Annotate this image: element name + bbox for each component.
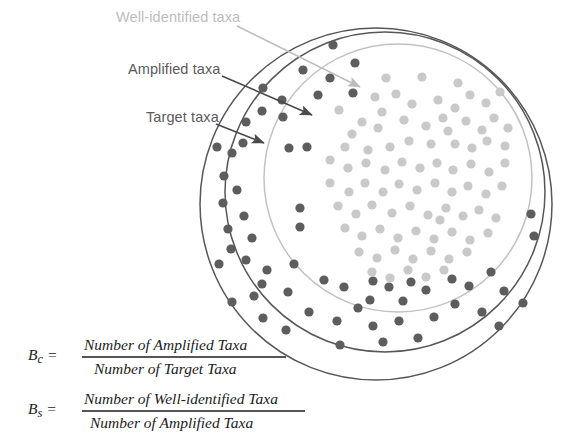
taxa-dot-inner [415, 163, 424, 172]
taxa-dot-outer [258, 313, 267, 322]
taxa-dot-outer [257, 106, 266, 115]
taxa-dot-outer [295, 203, 304, 212]
taxa-dot-inner [433, 95, 442, 104]
taxa-dot-outer [302, 142, 311, 151]
taxa-dot-outer [325, 73, 334, 82]
taxa-dot-outer [398, 296, 407, 305]
taxa-dot-outer [335, 340, 344, 349]
taxa-dot-outer [278, 112, 287, 121]
taxa-dot-outer [368, 321, 377, 330]
taxa-dot-outer [413, 333, 422, 342]
taxa-dot-inner [394, 179, 403, 188]
formula-bc-numerator: Number of Amplified Taxa [83, 336, 247, 353]
taxa-dot-inner [491, 213, 500, 222]
taxa-dot-inner [387, 208, 396, 217]
taxa-dot-inner [325, 155, 334, 164]
taxa-dot-inner [450, 103, 459, 112]
well-identified-taxa-dots [325, 72, 512, 282]
taxa-dot-inner [463, 181, 472, 190]
formula-bs: Bs = Number of Well-identified Taxa Numb… [28, 390, 305, 431]
taxa-dot-inner [432, 158, 441, 167]
taxa-dot-outer [450, 299, 459, 308]
taxa-dot-inner [325, 178, 334, 187]
taxa-dot-outer [378, 337, 387, 346]
taxa-dot-outer [289, 259, 298, 268]
taxa-dot-outer [281, 325, 290, 334]
formula-bs-numerator: Number of Well-identified Taxa [83, 390, 278, 407]
taxa-dot-inner [391, 89, 400, 98]
taxa-dot-inner [465, 90, 474, 99]
taxa-dot-inner [397, 157, 406, 166]
taxa-dot-inner [435, 215, 444, 224]
taxa-dot-inner [474, 205, 483, 214]
taxa-dot-inner [363, 145, 372, 154]
taxa-dot-outer [241, 255, 250, 264]
taxa-dot-outer [223, 224, 232, 233]
taxa-dot-inner [447, 187, 456, 196]
taxa-dot-outer [247, 233, 256, 242]
taxa-dot-outer [477, 307, 486, 316]
taxa-dot-inner [438, 113, 447, 122]
taxa-dot-inner [503, 123, 512, 132]
taxa-dot-outer [350, 58, 359, 67]
taxa-dot-outer [368, 276, 377, 285]
taxa-dot-inner [448, 165, 457, 174]
formula-bs-denominator: Number of Amplified Taxa [89, 414, 253, 431]
taxa-dot-inner [441, 203, 450, 212]
taxa-dot-inner [458, 211, 467, 220]
taxa-dot-inner [380, 165, 389, 174]
taxa-dot-outer [313, 90, 322, 99]
taxa-dot-inner [497, 181, 506, 190]
taxa-dot-inner [466, 159, 475, 168]
taxa-dot-outer [257, 279, 266, 288]
taxa-dot-inner [482, 136, 491, 145]
taxa-dot-outer [447, 274, 456, 283]
taxa-dot-inner [421, 272, 430, 281]
taxa-dot-outer [394, 316, 403, 325]
taxa-dot-outer [226, 244, 235, 253]
taxa-dot-inner [381, 73, 390, 82]
taxa-dot-outer [319, 275, 328, 284]
taxa-dot-inner [489, 113, 498, 122]
label-amplified-taxa: Amplified taxa [128, 61, 221, 77]
taxa-dot-outer [227, 148, 236, 157]
taxa-dot-inner [430, 178, 439, 187]
diagram-canvas: Well-identified taxa Amplified taxa Targ… [0, 0, 564, 438]
taxa-dot-inner [357, 117, 366, 126]
taxa-dot-inner [403, 265, 412, 274]
taxa-dot-outer [348, 88, 357, 97]
taxa-dot-outer [353, 303, 362, 312]
taxa-dot-outer [384, 282, 393, 291]
taxa-dot-outer [239, 211, 248, 220]
nested-circles-diagram: Well-identified taxa Amplified taxa Targ… [0, 0, 564, 438]
taxa-dot-inner [372, 253, 381, 262]
taxa-dot-inner [426, 139, 435, 148]
taxa-dot-outer [421, 285, 430, 294]
taxa-dot-outer [212, 142, 221, 151]
taxa-dot-inner [399, 115, 408, 124]
taxa-dot-inner [407, 99, 416, 108]
taxa-dot-outer [241, 117, 250, 126]
taxa-dot-outer [464, 281, 473, 290]
taxa-dot-inner [333, 201, 342, 210]
formula-bc-denominator: Number of Target Taxa [93, 360, 237, 377]
taxa-dot-inner [343, 163, 352, 172]
taxa-dot-inner [390, 245, 399, 254]
taxa-dot-inner [367, 267, 376, 276]
taxa-dot-inner [465, 235, 474, 244]
taxa-dot-inner [404, 136, 413, 145]
taxa-dot-outer [332, 316, 341, 325]
taxa-dot-outer [218, 198, 227, 207]
taxa-dot-inner [360, 178, 369, 187]
taxa-dot-outer [529, 231, 538, 240]
taxa-dot-inner [461, 116, 470, 125]
taxa-dot-inner [378, 187, 387, 196]
taxa-dot-inner [385, 142, 394, 151]
taxa-dot-outer [232, 185, 241, 194]
taxa-dot-outer [238, 138, 247, 147]
labels-group: Well-identified taxa Amplified taxa Targ… [116, 9, 241, 125]
label-target-taxa: Target taxa [146, 109, 220, 125]
taxa-dot-inner [357, 231, 366, 240]
taxa-dot-outer [284, 143, 293, 152]
taxa-dot-outer [262, 265, 271, 274]
